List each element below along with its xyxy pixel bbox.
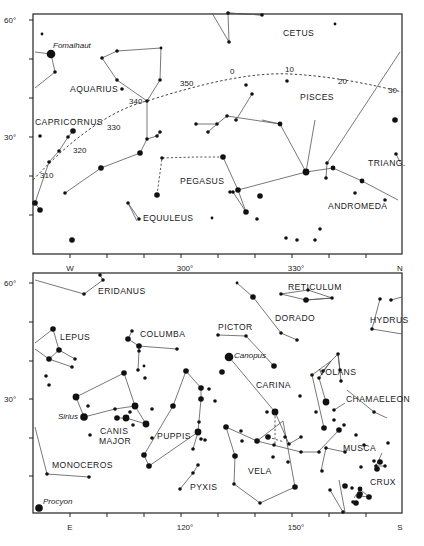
star-icon [341, 510, 345, 514]
star-icon [359, 465, 363, 469]
constellation-line [226, 427, 257, 441]
star-icon [143, 365, 146, 368]
star-icon [178, 487, 182, 491]
star-icon [314, 410, 318, 414]
star-icon [366, 494, 372, 500]
constellation-label: PISCES [300, 92, 334, 102]
star-icon [46, 356, 52, 362]
ecliptic-longitude-label: 320 [73, 146, 87, 155]
star-icon [57, 149, 61, 153]
star-icon [386, 441, 390, 445]
star-icon [228, 190, 232, 194]
y-axis-label: 60° [4, 16, 16, 25]
x-axis-label: N [397, 264, 403, 273]
star-icon [313, 238, 317, 242]
constellation-line [327, 52, 400, 163]
star-icon [211, 217, 214, 220]
south-panel: 60°30°E120°150°SERIDANUSRETICULUMHYDRUSD… [4, 273, 410, 532]
star-icon [360, 179, 365, 184]
star-icon [332, 418, 336, 422]
star-icon [321, 425, 327, 431]
constellation-label: PYXIS [190, 482, 217, 492]
star-icon [207, 387, 211, 391]
star-icon [394, 152, 398, 156]
star-name-label: Sirius [58, 412, 78, 421]
star-icon [358, 487, 363, 492]
star-icon [325, 161, 329, 165]
star-icon [47, 383, 51, 387]
star-icon [258, 501, 262, 505]
star-icon [330, 296, 334, 300]
constellation-line [326, 163, 327, 178]
star-icon [197, 420, 201, 424]
star-name-label: Fomalhaut [53, 41, 92, 50]
star-icon [257, 193, 263, 199]
constellation-line [128, 203, 139, 219]
star-icon [244, 334, 248, 338]
star-icon [356, 493, 362, 499]
star-icon [278, 122, 283, 127]
star-icon [240, 439, 244, 443]
star-icon [150, 407, 154, 411]
star-icon [336, 427, 342, 433]
star-icon [137, 217, 141, 221]
star-icon [100, 56, 104, 60]
star-icon [196, 463, 200, 467]
ecliptic-longitude-label: 20 [338, 77, 347, 86]
star-icon [183, 368, 189, 374]
constellation-line [330, 490, 343, 512]
constellation-line [306, 298, 332, 300]
star-icon [392, 117, 398, 123]
star-icon [295, 338, 299, 342]
star-icon [254, 438, 260, 444]
constellation-line [35, 329, 59, 359]
star-icon [272, 409, 279, 416]
star-icon [101, 278, 105, 282]
star-icon [44, 374, 48, 378]
star-icon [283, 435, 287, 439]
star-icon [339, 379, 343, 383]
star-icon [271, 455, 275, 459]
constellation-line [196, 116, 227, 124]
constellation-line [35, 427, 47, 474]
constellation-label: VOLANS [319, 367, 356, 377]
constellation-line [334, 403, 345, 410]
star-icon [310, 373, 314, 377]
star-icon [98, 165, 104, 171]
star-icon [272, 443, 276, 447]
star-icon [286, 460, 290, 464]
star-icon [332, 408, 336, 412]
star-icon [35, 504, 43, 512]
star-icon [285, 79, 289, 83]
constellation-label: CANIS [100, 426, 128, 436]
y-axis-label: 30° [4, 133, 16, 142]
star-icon [372, 410, 376, 414]
constellation-label: AQUARIUS [70, 84, 118, 94]
star-icon [279, 292, 283, 296]
star-icon [292, 484, 298, 490]
star-icon [82, 292, 86, 296]
constellation-label: CETUS [283, 28, 314, 38]
star-icon [271, 363, 277, 369]
star-icon [63, 191, 67, 195]
star-icon [331, 166, 336, 171]
star-icon [130, 329, 134, 333]
star-icon [372, 459, 376, 463]
star-chart-canvas: 60°30°W300°330°NCETUSAQUARIUSPISCESCAPRI… [0, 0, 424, 546]
constellation-line [306, 120, 315, 172]
constellation-label: ERIDANUS [98, 286, 146, 296]
constellation-label: ANDROMEDA [328, 201, 387, 211]
star-icon [255, 217, 259, 221]
star-icon [121, 370, 127, 376]
constellation-line [208, 124, 217, 132]
star-icon [195, 429, 202, 436]
star-icon [198, 385, 204, 391]
star-icon [155, 134, 159, 138]
star-icon [73, 357, 77, 361]
star-icon [146, 463, 152, 469]
constellation-label: RETICULUM [288, 282, 342, 292]
star-icon [220, 154, 226, 160]
ecliptic-longitude-label: 340 [129, 97, 143, 106]
star-icon [32, 200, 38, 206]
star-icon [115, 78, 119, 82]
